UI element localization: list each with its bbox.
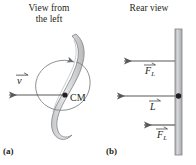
panel-label-a: (a) [3, 146, 14, 156]
right-panel-title: Rear view [110, 3, 188, 14]
physics-figure-boomerang: View from the left [0, 0, 196, 165]
force-label-top: F L [145, 65, 155, 77]
angular-momentum-label-middle: L [150, 101, 156, 112]
force-subscript: L [163, 134, 167, 141]
center-of-mass-label: CM [70, 92, 86, 103]
velocity-symbol: v [17, 75, 22, 86]
force-subscript: L [151, 70, 155, 77]
rear-view-pivot-dot [176, 93, 182, 99]
force-label-bottom: F L [157, 129, 167, 141]
boomerang-body [52, 34, 85, 139]
angular-momentum-symbol: L [150, 101, 156, 112]
center-of-mass-dot [62, 92, 67, 97]
rear-view-bar [175, 29, 182, 155]
force-symbol: F [145, 65, 151, 76]
panel-label-b: (b) [106, 146, 117, 156]
force-symbol: F [157, 129, 163, 140]
velocity-vector-label: v [17, 75, 22, 86]
